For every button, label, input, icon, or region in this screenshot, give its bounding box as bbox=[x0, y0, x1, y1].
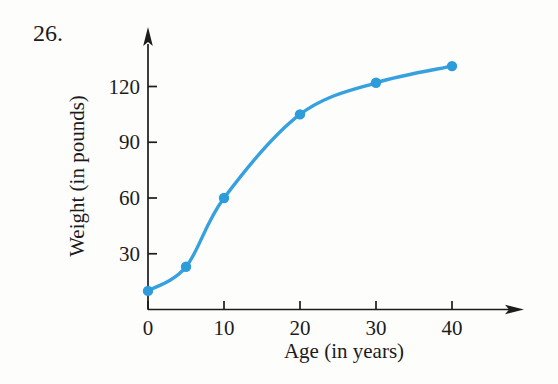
x-tick-label: 20 bbox=[290, 316, 311, 340]
data-point-marker bbox=[371, 78, 381, 88]
data-point-marker bbox=[295, 109, 305, 119]
x-tick-label: 30 bbox=[366, 316, 387, 340]
y-tick-label: 120 bbox=[109, 75, 141, 99]
y-axis-arrowhead-icon bbox=[143, 27, 153, 46]
textbook-figure-page: 26. 306090120010203040 Weight (in pounds… bbox=[0, 0, 558, 384]
y-tick-label: 60 bbox=[119, 186, 140, 210]
y-tick-label: 30 bbox=[119, 242, 140, 266]
x-tick-label: 10 bbox=[214, 316, 235, 340]
x-tick-label: 0 bbox=[143, 316, 154, 340]
y-axis-label: Weight (in pounds) bbox=[65, 95, 90, 257]
data-point-marker bbox=[181, 262, 191, 272]
data-point-marker bbox=[447, 61, 457, 71]
y-tick-label: 90 bbox=[119, 130, 140, 154]
data-point-marker bbox=[143, 286, 153, 296]
data-point-marker bbox=[219, 193, 229, 203]
x-axis-label: Age (in years) bbox=[284, 339, 404, 364]
x-tick-label: 40 bbox=[442, 316, 463, 340]
growth-curve-line bbox=[148, 66, 452, 291]
